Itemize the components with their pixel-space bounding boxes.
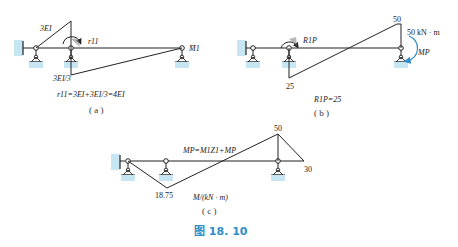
label-r1p: R1P	[302, 36, 317, 45]
figure-caption: 图 18. 10	[194, 225, 248, 238]
value-30: 30	[304, 165, 312, 174]
equation-b: R1P=25	[313, 95, 341, 104]
equation-a: r11=3EI+3EI/3=4EI	[57, 90, 125, 99]
units-label: M/(kN · m)	[192, 193, 228, 202]
panel-b: 50 50 kN · m MP R1P 25 R1P=25 ( b )	[237, 15, 440, 118]
pin-support-icon	[29, 50, 43, 68]
label-mp: MP	[417, 48, 430, 57]
fixed-support-icon	[237, 40, 251, 56]
moment-diagram-right	[71, 48, 182, 75]
applied-moment-arrow-icon	[407, 36, 418, 61]
fixed-support-icon	[111, 154, 125, 170]
value-50: 50	[393, 15, 401, 24]
applied-moment-value: 50 kN · m	[407, 28, 440, 37]
hinge-node	[251, 46, 256, 51]
pin-support-icon	[246, 50, 260, 68]
value-50: 50	[274, 124, 282, 133]
pin-support-icon	[394, 50, 408, 68]
pin-support-icon	[271, 163, 285, 181]
pin-support-icon	[175, 50, 189, 68]
panel-a: 3EI 3EI/3 r11 M̄1 r11=3EI+3EI/3=4EI ( a …	[14, 21, 200, 115]
moment-diagram-c-cantilever	[278, 134, 304, 161]
pin-support-icon	[121, 163, 135, 181]
label-m1bar: M̄1	[188, 44, 200, 53]
pin-support-icon	[159, 163, 173, 181]
panel-b-label: ( b )	[314, 108, 329, 118]
value-25: 25	[286, 82, 294, 91]
label-r11: r11	[88, 37, 99, 46]
panel-c: 50 30 18.75 MP=M1Z1+MP M/(kN · m) ( c )	[111, 124, 312, 216]
label-3ei: 3EI	[39, 24, 52, 33]
panel-c-label: ( c )	[202, 206, 217, 216]
moment-diagram-b	[289, 24, 401, 78]
panel-a-label: ( a )	[89, 105, 104, 115]
value-18-75: 18.75	[155, 191, 173, 200]
hinge-node	[164, 159, 169, 164]
equation-c: MP=M1Z1+MP	[182, 146, 236, 155]
structural-diagram: 3EI 3EI/3 r11 M̄1 r11=3EI+3EI/3=4EI ( a …	[0, 0, 458, 247]
label-3ei-3: 3EI/3	[52, 74, 71, 83]
fixed-support-icon	[14, 40, 34, 56]
